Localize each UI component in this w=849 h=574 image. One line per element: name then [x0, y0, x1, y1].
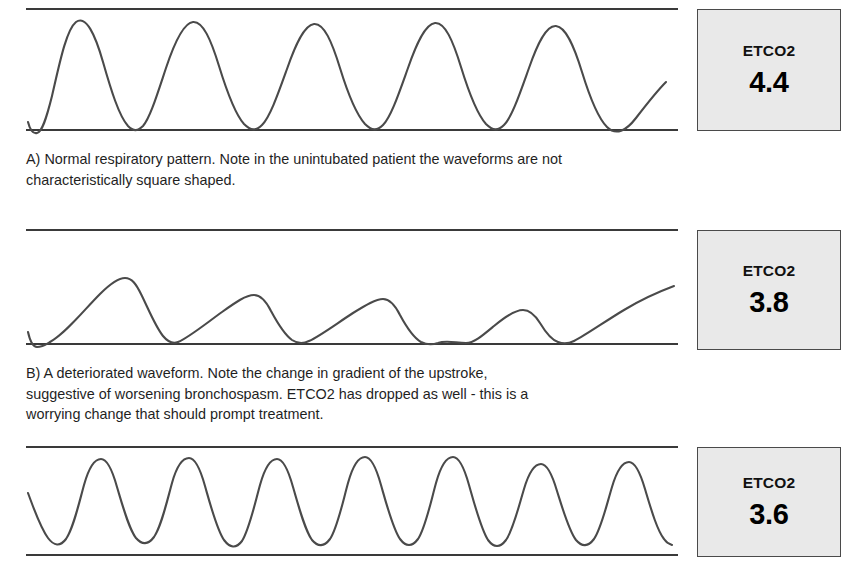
- etco2-label-b: ETCO2: [743, 263, 796, 279]
- panel-b: ETCO2 3.8 B) A deteriorated waveform. No…: [0, 222, 849, 432]
- waveform-path-a: [28, 21, 666, 134]
- caption-a-line-1: A) Normal respiratory pattern. Note in t…: [26, 149, 681, 170]
- waveform-strip-b: [26, 222, 682, 352]
- waveform-strip-c: [26, 437, 682, 567]
- etco2-label-c: ETCO2: [743, 475, 796, 491]
- panel-c: ETCO2 3.6: [0, 437, 849, 574]
- capnography-trace-b: [26, 222, 682, 352]
- capnography-trace-a: [26, 0, 682, 140]
- etco2-label-a: ETCO2: [743, 43, 796, 59]
- etco2-value-c: 3.6: [749, 500, 788, 529]
- waveform-strip-a: [26, 0, 682, 140]
- caption-b-line-1: B) A deteriorated waveform. Note the cha…: [26, 363, 681, 384]
- waveform-path-b: [28, 278, 674, 347]
- etco2-box-b: ETCO2 3.8: [697, 230, 841, 350]
- caption-b: B) A deteriorated waveform. Note the cha…: [26, 363, 681, 425]
- etco2-box-c: ETCO2 3.6: [697, 447, 841, 557]
- caption-a-line-2: characteristically square shaped.: [26, 170, 681, 191]
- capnography-trace-c: [26, 437, 682, 567]
- caption-b-line-2: suggestive of worsening bronchospasm. ET…: [26, 384, 681, 405]
- caption-b-line-3: worrying change that should prompt treat…: [26, 404, 681, 425]
- etco2-value-b: 3.8: [749, 288, 788, 317]
- etco2-value-a: 4.4: [749, 68, 788, 97]
- etco2-box-a: ETCO2 4.4: [697, 9, 841, 131]
- caption-a: A) Normal respiratory pattern. Note in t…: [26, 149, 681, 190]
- waveform-path-c: [28, 457, 672, 547]
- panel-a: ETCO2 4.4 A) Normal respiratory pattern.…: [0, 0, 849, 200]
